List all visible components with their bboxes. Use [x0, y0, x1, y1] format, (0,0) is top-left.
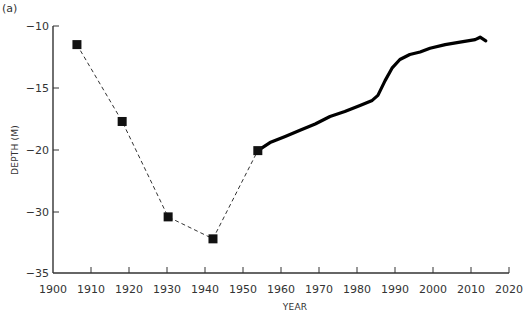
x-tick-label: 1920: [115, 283, 143, 296]
x-tick-label: 1910: [77, 283, 105, 296]
square-marker: [164, 212, 173, 221]
square-marker: [118, 117, 127, 126]
square-marker: [72, 40, 81, 49]
x-tick-label: 1960: [267, 283, 295, 296]
x-tick-label: 1980: [343, 283, 371, 296]
x-tick-label: 2010: [457, 283, 485, 296]
data-series: [72, 37, 485, 243]
y-tick-label: −20: [26, 144, 49, 157]
axes: −10−15−20−30−351900191019201930194019501…: [26, 20, 523, 296]
x-axis-title: YEAR: [282, 302, 307, 312]
x-tick-label: 1940: [191, 283, 219, 296]
x-tick-label: 1930: [153, 283, 181, 296]
x-tick-label: 2020: [495, 283, 523, 296]
y-axis-title: DEPTH (M): [10, 125, 20, 175]
depth-vs-year-chart: −10−15−20−30−351900191019201930194019501…: [0, 0, 528, 324]
square-marker: [208, 234, 217, 243]
x-tick-label: 1990: [381, 283, 409, 296]
x-tick-label: 1950: [229, 283, 257, 296]
y-tick-label: −30: [26, 206, 49, 219]
x-tick-label: 1970: [305, 283, 333, 296]
dashed-line-series: [77, 45, 258, 239]
y-tick-label: −35: [26, 267, 49, 280]
x-tick-label: 2000: [419, 283, 447, 296]
y-tick-label: −15: [26, 82, 49, 95]
square-marker: [253, 146, 262, 155]
x-tick-label: 1900: [39, 283, 67, 296]
continuous-line-series: [258, 37, 486, 150]
y-tick-label: −10: [26, 20, 49, 33]
